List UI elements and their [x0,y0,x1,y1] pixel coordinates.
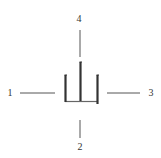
label-left: 1 [8,88,13,98]
label-bottom: 2 [78,142,83,152]
label-top: 4 [77,14,82,24]
label-right: 3 [149,88,154,98]
